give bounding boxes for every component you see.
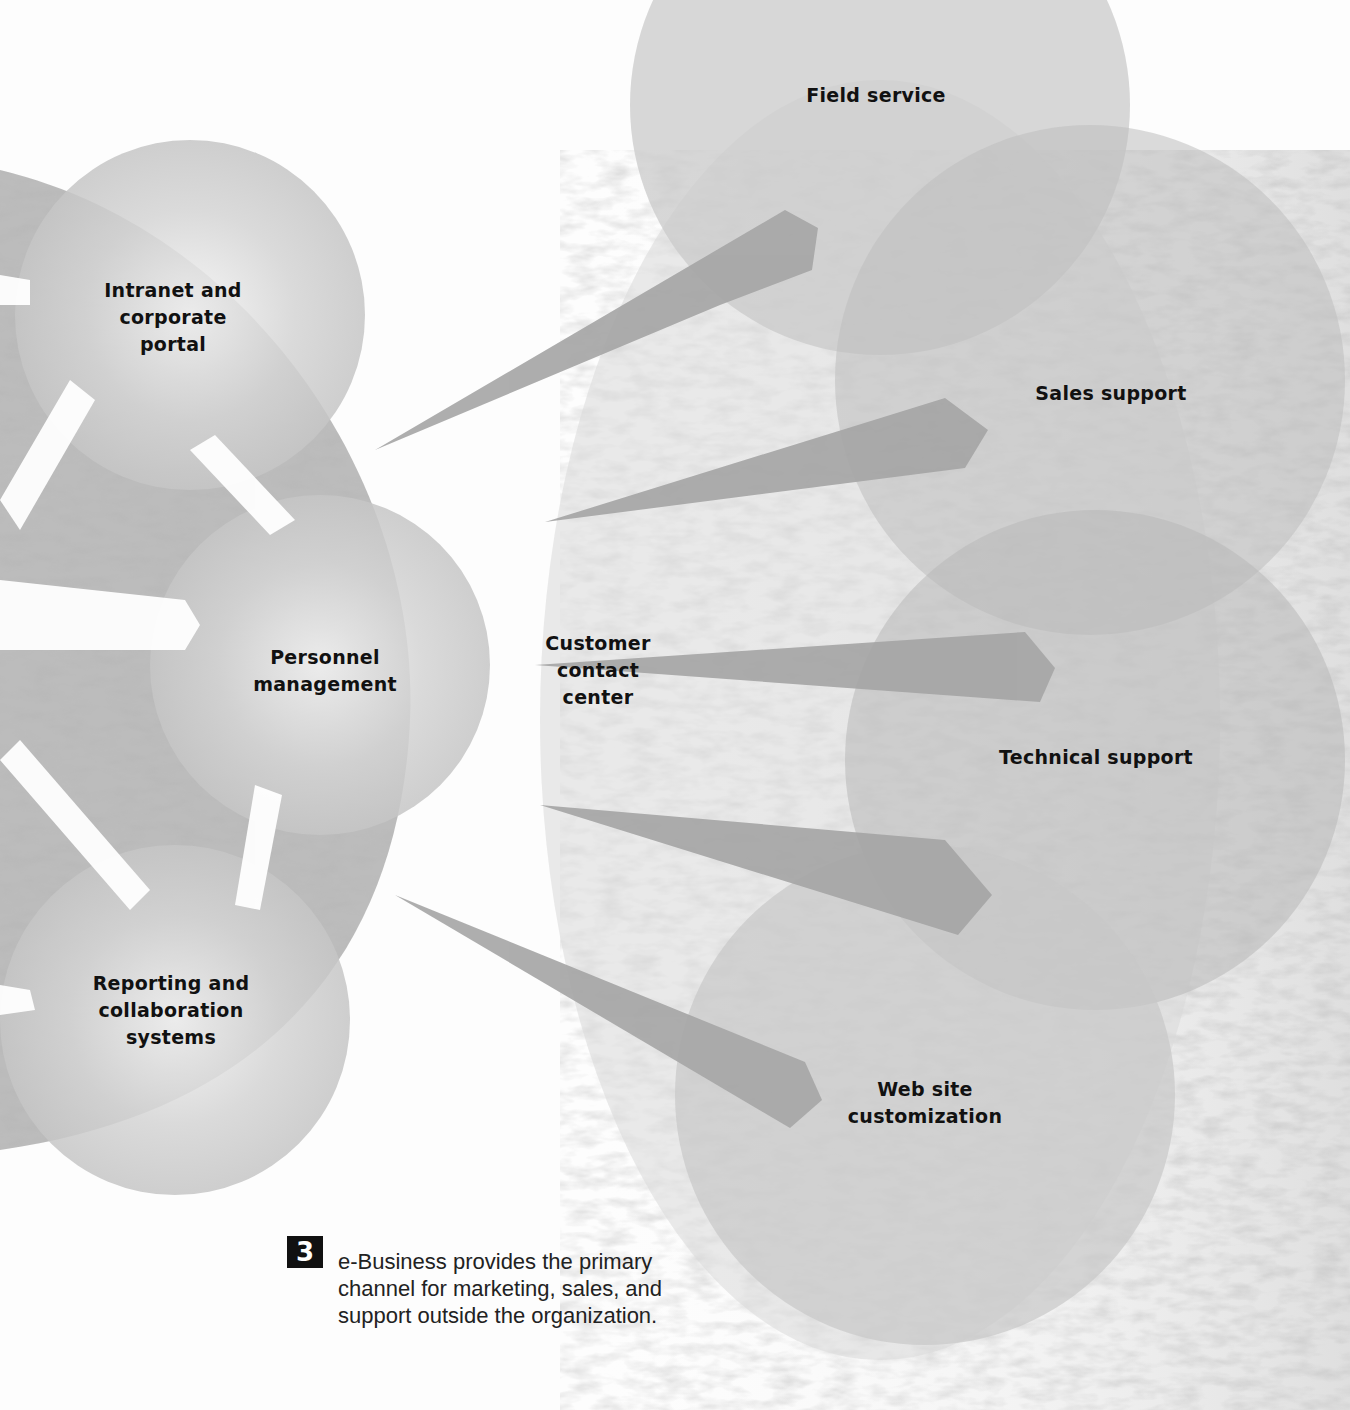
diagram-canvas: Intranet and corporate portal Personnel … bbox=[0, 0, 1350, 1410]
figure-number-badge: 3 bbox=[287, 1236, 323, 1268]
hub-customer-contact-center-label: Customer contact center bbox=[545, 630, 650, 711]
node-intranet-label: Intranet and corporate portal bbox=[104, 277, 242, 358]
node-reporting-label: Reporting and collaboration systems bbox=[93, 970, 250, 1051]
node-web-site-customization-label: Web site customization bbox=[848, 1076, 1003, 1130]
diagram-background bbox=[0, 0, 1350, 1410]
node-field-service-label: Field service bbox=[806, 82, 946, 109]
node-technical-support-label: Technical support bbox=[999, 744, 1193, 771]
caption-text: e-Business provides the primary channel … bbox=[338, 1248, 738, 1329]
node-personnel-label: Personnel management bbox=[253, 644, 397, 698]
node-sales-support-label: Sales support bbox=[1035, 380, 1186, 407]
